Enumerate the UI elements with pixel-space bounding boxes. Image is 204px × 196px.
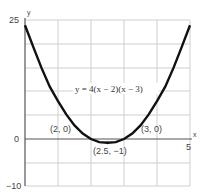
parabola-chart: y x 25 0 −10 5 y = 4(x − 2)(x − 3) (2, 0… xyxy=(0,0,204,196)
equation-label: y = 4(x − 2)(x − 3) xyxy=(75,84,143,94)
x-tick-5: 5 xyxy=(186,142,191,152)
y-tick-0: 0 xyxy=(14,134,19,144)
vertex-point xyxy=(106,141,109,144)
point-label-vertex: (2.5, −1) xyxy=(93,146,127,156)
x-axis-label: x xyxy=(193,131,197,138)
y-tick-minus10: −10 xyxy=(6,181,21,191)
y-tick-25: 25 xyxy=(9,15,19,25)
point-label-2-0: (2, 0) xyxy=(50,124,71,134)
grid xyxy=(25,20,190,186)
y-axis-label: y xyxy=(27,9,31,17)
point-label-3-0: (3, 0) xyxy=(141,124,162,134)
